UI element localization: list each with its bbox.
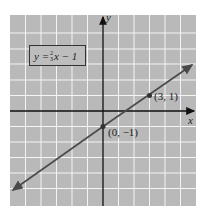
point-3-1 (147, 93, 152, 98)
point-label-3-1: (3, 1) (154, 90, 178, 102)
point-label-0-neg1: (0, −1) (108, 126, 138, 138)
equation-fraction: 2 3 (50, 50, 53, 62)
fraction-denominator: 3 (50, 56, 53, 62)
equation-prefix: y = (34, 50, 49, 62)
x-axis-label: x (188, 114, 193, 126)
coordinate-graph (0, 0, 204, 215)
point-0-neg1 (101, 124, 106, 129)
equation-suffix: x − 1 (54, 50, 77, 62)
equation-label: y = 2 3 x − 1 (29, 45, 86, 66)
y-axis-label: y (106, 11, 111, 23)
